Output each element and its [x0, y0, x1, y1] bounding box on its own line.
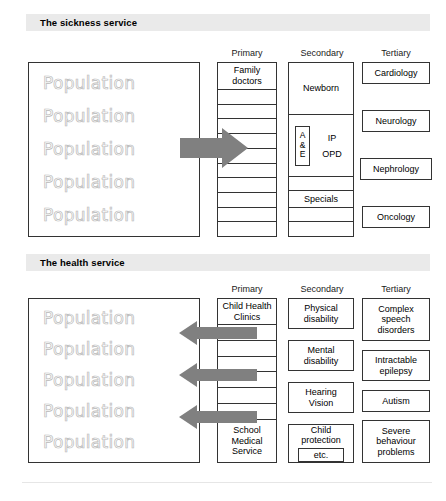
- primary-top-label-sickness: Family doctors: [218, 63, 276, 90]
- tertiary-box-cardiology: Cardiology: [362, 62, 430, 84]
- tertiary-line3: disorders: [377, 325, 414, 336]
- primary-rung: [218, 208, 276, 223]
- tertiary-line1: Complex: [378, 304, 414, 315]
- primary-rung: [218, 193, 276, 208]
- secondary-blank-row: [289, 222, 353, 236]
- tertiary-label: Nephrology: [373, 164, 419, 175]
- secondary-line1: Physical: [304, 303, 338, 314]
- secondary-line2: disability: [304, 356, 339, 367]
- column-header-secondary-health: Secondary: [288, 284, 356, 294]
- secondary-box-child-protection: Child protection etc.: [288, 424, 354, 463]
- secondary-line2: Vision: [309, 398, 333, 409]
- tertiary-line2: epilepsy: [379, 366, 412, 377]
- population-word: Population: [43, 310, 135, 328]
- secondary-box-physical-disability: Physical disability: [288, 298, 354, 329]
- tertiary-label: Oncology: [377, 212, 415, 223]
- population-word: Population: [43, 75, 135, 93]
- primary-label-line2: doctors: [232, 76, 262, 87]
- section-title-band-health: The health service: [26, 254, 430, 271]
- secondary-line1: Hearing: [305, 387, 337, 398]
- primary-rung: [218, 222, 276, 236]
- secondary-box-mental-disability: Mental disability: [288, 340, 354, 371]
- column-header-primary-health: Primary: [218, 284, 276, 294]
- primary-rung: [218, 90, 276, 105]
- bottom-divider: [22, 482, 432, 483]
- primary-rung: [218, 178, 276, 193]
- tertiary-box-oncology: Oncology: [362, 206, 430, 228]
- secondary-newborn-label: Newborn: [303, 83, 339, 94]
- flow-arrow-left-health-1: [179, 321, 257, 345]
- population-box-sickness: Population Population Population Populat…: [28, 62, 200, 237]
- primary-label-line1: Family: [234, 65, 261, 76]
- tertiary-box-nephrology: Nephrology: [360, 158, 432, 180]
- primary-bottom-line2: Medical: [231, 436, 262, 447]
- secondary-newborn-cell: Newborn: [289, 63, 353, 115]
- tertiary-label: Neurology: [375, 116, 416, 127]
- diagram-page: The sickness service Primary Secondary T…: [0, 0, 446, 501]
- population-word: Population: [43, 141, 135, 159]
- population-word: Population: [43, 108, 135, 126]
- primary-rung: [218, 105, 276, 120]
- primary-rung: [218, 388, 276, 404]
- flow-arrow-left-health-3: [179, 405, 257, 429]
- column-header-secondary-sickness: Secondary: [288, 48, 356, 58]
- tertiary-box-neurology: Neurology: [362, 110, 430, 132]
- secondary-line1: Child: [311, 425, 332, 436]
- section-title-band-sickness: The sickness service: [26, 14, 430, 31]
- population-word: Population: [43, 174, 135, 192]
- population-word: Population: [43, 434, 135, 452]
- ip-opd-group: IP OPD: [315, 129, 349, 161]
- tertiary-label: Cardiology: [374, 68, 417, 79]
- flow-arrow-right-sickness: [180, 128, 248, 168]
- secondary-line2: disability: [304, 314, 339, 325]
- tertiary-line1: Intractable: [375, 355, 417, 366]
- ae-line3: E: [300, 150, 306, 160]
- primary-bottom-line3: Service: [232, 446, 262, 457]
- tertiary-line1: Severe: [382, 426, 411, 437]
- column-header-tertiary-sickness: Tertiary: [362, 48, 430, 58]
- population-word: Population: [43, 403, 135, 421]
- tertiary-line3: problems: [377, 447, 414, 458]
- tertiary-line2: speech: [381, 314, 410, 325]
- primary-label-line1: Child Health: [222, 301, 271, 312]
- opd-label: OPD: [322, 146, 342, 162]
- secondary-specials-cell: Specials: [289, 191, 353, 208]
- population-word: Population: [43, 372, 135, 390]
- secondary-specials-label: Specials: [304, 194, 338, 205]
- flow-arrow-left-health-2: [179, 363, 257, 387]
- population-word: Population: [43, 207, 135, 225]
- ae-box: A & E: [295, 126, 310, 166]
- secondary-line1: Mental: [307, 345, 334, 356]
- tertiary-line1: Autism: [382, 396, 410, 407]
- section-title-sickness: The sickness service: [26, 17, 137, 28]
- population-word: Population: [43, 341, 135, 359]
- secondary-line2: protection: [301, 435, 341, 446]
- tertiary-box-intractable-epilepsy: Intractable epilepsy: [362, 350, 430, 381]
- secondary-stack-sickness: Newborn A & E IP OPD Specials: [288, 62, 354, 237]
- column-header-primary-sickness: Primary: [218, 48, 276, 58]
- tertiary-line2: behaviour: [376, 436, 416, 447]
- tertiary-box-complex-speech-disorders: Complex speech disorders: [362, 298, 430, 341]
- tertiary-box-severe-behaviour-problems: Severe behaviour problems: [362, 420, 430, 463]
- section-title-health: The health service: [26, 257, 125, 268]
- secondary-blank-row: [289, 208, 353, 222]
- ip-label: IP: [328, 129, 337, 145]
- etc-box: etc.: [298, 448, 344, 463]
- secondary-blank-row: [289, 177, 353, 191]
- tertiary-box-autism: Autism: [362, 390, 430, 412]
- secondary-box-hearing-vision: Hearing Vision: [288, 382, 354, 413]
- secondary-ae-ip-opd-cell: A & E IP OPD: [289, 115, 353, 177]
- population-box-health: Population Population Population Populat…: [28, 298, 200, 463]
- column-header-tertiary-health: Tertiary: [362, 284, 430, 294]
